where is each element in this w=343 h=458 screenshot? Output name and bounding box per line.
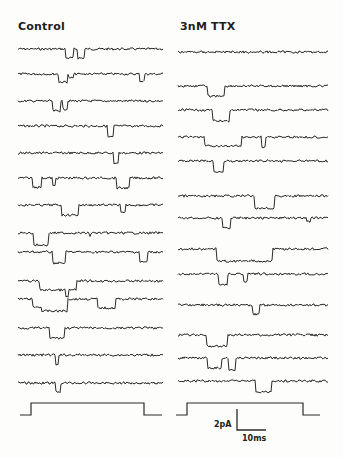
scale-bar-lines bbox=[237, 409, 266, 430]
current-trace bbox=[18, 177, 163, 189]
current-trace bbox=[18, 204, 163, 216]
current-trace bbox=[178, 136, 328, 148]
current-trace bbox=[18, 73, 163, 83]
figure: Control 3nM TTX 2pA 10ms bbox=[0, 0, 343, 458]
current-trace bbox=[18, 280, 163, 298]
current-trace bbox=[18, 382, 163, 393]
current-trace bbox=[18, 354, 163, 365]
current-trace bbox=[178, 217, 328, 229]
current-trace bbox=[18, 125, 163, 137]
current-trace bbox=[178, 160, 328, 173]
current-trace bbox=[18, 232, 163, 246]
scale-current-label: 2pA bbox=[214, 420, 231, 429]
current-trace bbox=[18, 152, 163, 164]
current-trace bbox=[18, 298, 163, 312]
current-trace bbox=[178, 334, 328, 347]
current-trace bbox=[18, 327, 163, 339]
current-traces bbox=[0, 0, 343, 458]
stimulus-pulse bbox=[20, 403, 162, 415]
current-trace bbox=[178, 109, 328, 122]
current-trace bbox=[178, 195, 328, 209]
current-trace bbox=[178, 357, 328, 371]
scale-bar bbox=[237, 409, 266, 430]
current-trace bbox=[178, 248, 328, 262]
current-trace bbox=[178, 380, 328, 393]
current-trace bbox=[18, 48, 163, 59]
current-trace bbox=[178, 51, 328, 53]
control-traces bbox=[18, 48, 163, 393]
current-trace bbox=[178, 273, 328, 285]
current-trace bbox=[178, 304, 328, 315]
stimulus-pulse bbox=[176, 403, 320, 415]
current-trace bbox=[178, 85, 328, 97]
ttx-traces bbox=[178, 51, 328, 393]
current-trace bbox=[18, 100, 163, 112]
current-trace bbox=[18, 251, 163, 264]
scale-time-label: 10ms bbox=[242, 434, 266, 443]
stimulus-pulses bbox=[20, 403, 320, 415]
